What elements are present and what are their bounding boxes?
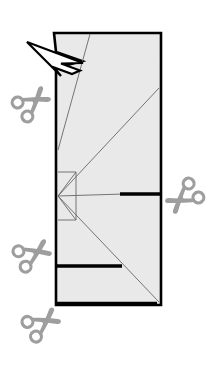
paper-cut-diagram <box>0 0 209 367</box>
diagram-canvas: Paper Cut Instruction Diagram Tall verti… <box>0 0 209 367</box>
